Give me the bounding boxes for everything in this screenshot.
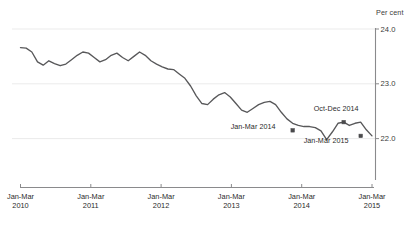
y-axis <box>376 28 380 180</box>
x-tick-label-year: 2014 <box>288 201 315 211</box>
y-axis-unit-label: Per cent <box>376 8 404 17</box>
x-tick-label-year: 2015 <box>358 201 385 211</box>
x-tick-label: Jan-Mar2012 <box>148 192 175 211</box>
point-annotation: Jan-Mar 2014 <box>231 122 276 131</box>
x-tick-label-period: Jan-Mar <box>7 192 34 202</box>
data-series <box>21 48 373 140</box>
x-tick-label-year: 2013 <box>218 201 245 211</box>
x-tick-label: Jan-Mar2015 <box>358 192 385 211</box>
gridlines <box>12 29 376 139</box>
y-tick-label: 24.0 <box>381 25 396 34</box>
x-tick-label: Jan-Mar2013 <box>218 192 245 211</box>
x-tick-label-year: 2012 <box>148 201 175 211</box>
x-axis <box>20 184 374 188</box>
x-tick-label-period: Jan-Mar <box>288 192 315 202</box>
x-tick-label-year: 2011 <box>77 201 104 211</box>
point-annotation: Oct-Dec 2014 <box>314 104 359 113</box>
x-tick-label: Jan-Mar2011 <box>77 192 104 211</box>
x-tick-label-year: 2010 <box>7 201 34 211</box>
x-tick-label-period: Jan-Mar <box>218 192 245 202</box>
x-tick-label-period: Jan-Mar <box>77 192 104 202</box>
x-tick-label-period: Jan-Mar <box>148 192 175 202</box>
y-tick-label: 23.0 <box>381 79 396 88</box>
y-tick-label: 22.0 <box>381 134 396 143</box>
x-tick-label-period: Jan-Mar <box>358 192 385 202</box>
chart-canvas <box>0 0 407 230</box>
x-tick-label: Jan-Mar2014 <box>288 192 315 211</box>
line-chart: Per cent 24.023.022.0 Jan-Mar2010Jan-Mar… <box>0 0 407 230</box>
x-tick-label: Jan-Mar2010 <box>7 192 34 211</box>
point-annotation: Jan-Mar 2015 <box>304 136 349 145</box>
